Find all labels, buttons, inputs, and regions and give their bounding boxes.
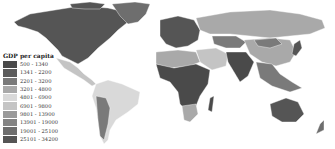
region-southeast-asia — [256, 62, 302, 92]
legend-label: 2201 - 3200 — [20, 77, 51, 85]
legend-label: 25101 - 34200 — [20, 135, 58, 143]
legend-item: 19001 - 25100 — [3, 126, 73, 134]
legend-swatch — [3, 68, 17, 76]
legend-label: 13901 - 19000 — [20, 118, 58, 126]
legend-item: 6901 - 9800 — [3, 101, 73, 109]
region-arctic-islands — [70, 2, 105, 9]
legend-swatch — [3, 110, 17, 118]
legend-item: 9801 - 13900 — [3, 110, 73, 118]
legend-label: 4801 - 6900 — [20, 93, 51, 101]
region-new-zealand — [316, 120, 324, 134]
region-southern-africa — [182, 104, 198, 122]
legend-label: 1341 - 2200 — [20, 68, 51, 76]
region-central-asia — [212, 36, 246, 48]
legend-swatch — [3, 118, 17, 126]
legend-item: 2201 - 3200 — [3, 77, 73, 85]
legend-swatch — [3, 93, 17, 101]
legend-item: 25101 - 34200 — [3, 135, 73, 143]
region-australia — [270, 98, 304, 122]
legend-label: 500 - 1340 — [20, 60, 48, 68]
legend-swatch — [3, 85, 17, 93]
legend-swatch — [3, 77, 17, 85]
region-japan — [292, 40, 302, 56]
legend-items: 500 - 1340 1341 - 2200 2201 - 3200 3201 … — [3, 60, 73, 143]
legend-title: GDP per capita — [3, 52, 73, 59]
legend-swatch — [3, 135, 17, 143]
legend-item: 3201 - 4800 — [3, 85, 73, 93]
map-legend: GDP per capita 500 - 1340 1341 - 2200 22… — [3, 52, 73, 143]
legend-label: 6901 - 9800 — [20, 102, 51, 110]
legend-label: 19001 - 25100 — [20, 127, 58, 135]
region-europe — [160, 16, 200, 48]
legend-item: 500 - 1340 — [3, 60, 73, 68]
region-russia — [196, 10, 325, 38]
region-sub-saharan-africa — [156, 64, 210, 110]
legend-swatch — [3, 101, 17, 109]
legend-swatch — [3, 60, 17, 68]
legend-swatch — [3, 126, 17, 134]
region-madagascar — [208, 96, 214, 112]
legend-label: 9801 - 13900 — [20, 110, 55, 118]
legend-item: 1341 - 2200 — [3, 68, 73, 76]
legend-item: 4801 - 6900 — [3, 93, 73, 101]
region-south-asia — [226, 52, 254, 82]
legend-item: 13901 - 19000 — [3, 118, 73, 126]
legend-label: 3201 - 4800 — [20, 85, 51, 93]
